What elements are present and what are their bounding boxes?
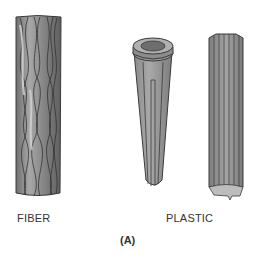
fiber-anchor-drawing (16, 16, 61, 197)
plastic-rod-drawing (209, 34, 243, 200)
fiber-label: FIBER (17, 212, 50, 224)
plastic-anchor-drawing (133, 38, 173, 186)
figure-caption: (A) (120, 234, 135, 246)
plastic-label: PLASTIC (166, 212, 213, 224)
